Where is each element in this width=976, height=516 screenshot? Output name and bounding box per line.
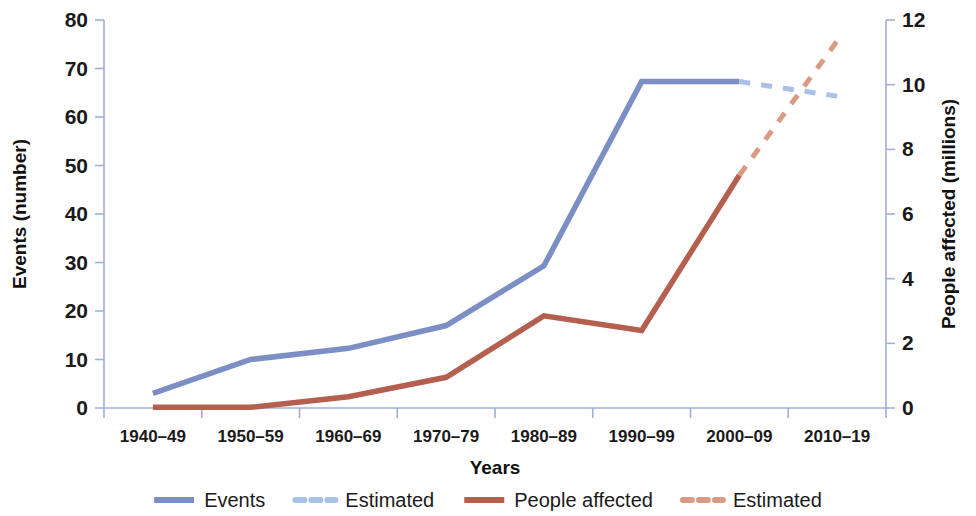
y-axis-right-tick-label: 4 [902,267,914,290]
line-chart: 01020304050607080 024681012 1940–491950–… [0,0,976,516]
y-axis-right-title: People affected (millions) [938,99,959,329]
chart-legend: EventsEstimatedPeople affectedEstimated [154,489,822,511]
x-axis: 1940–491950–591960–691970–791980–891990–… [104,408,886,446]
y-axis-left-tick-label: 40 [65,202,88,225]
y-axis-right-tick-label: 10 [902,73,925,96]
legend-item-estimated-1[interactable]: Estimated [295,489,434,511]
legend-label: Estimated [733,489,822,511]
y-axis-left-tick-label: 20 [65,299,88,322]
y-axis-left-tick-label: 10 [65,348,88,371]
legend-label: Events [204,489,265,511]
legend-item-events-0[interactable]: Events [154,489,265,511]
y-axis-left-tick-label: 50 [65,154,88,177]
legend-label: Estimated [345,489,434,511]
chart-container: 01020304050607080 024681012 1940–491950–… [0,0,976,516]
axis-titles: Events (number)People affected (millions… [9,99,959,478]
series-line-estimated-3 [739,41,837,175]
series-layer [153,41,837,407]
y-axis-left-tick-label: 0 [76,396,88,419]
legend-label: People affected [514,489,653,511]
y-axis-left: 01020304050607080 [65,8,104,419]
x-axis-tick-label: 1990–99 [609,427,675,446]
x-axis-tick-label: 1970–79 [413,427,479,446]
x-axis-tick-label: 1950–59 [218,427,284,446]
x-axis-tick-label: 1980–89 [511,427,577,446]
y-axis-left-tick-label: 60 [65,105,88,128]
x-axis-tick-label: 2000–09 [706,427,772,446]
legend-item-estimated-3[interactable]: Estimated [683,489,822,511]
x-axis-tick-label: 2010–19 [804,427,870,446]
x-axis-title: Years [470,457,521,478]
x-axis-tick-label: 1960–69 [315,427,381,446]
y-axis-left-title: Events (number) [9,139,30,289]
y-axis-left-tick-label: 80 [65,8,88,31]
series-line-events-0 [153,82,740,394]
y-axis-right-tick-label: 0 [902,396,914,419]
y-axis-right-tick-label: 12 [902,8,925,31]
y-axis-right-tick-label: 8 [902,137,914,160]
series-line-people-affected-2 [153,175,740,407]
y-axis-right-tick-label: 6 [902,202,914,225]
y-axis-left-tick-label: 30 [65,251,88,274]
legend-item-people-affected-2[interactable]: People affected [464,489,653,511]
y-axis-left-tick-label: 70 [65,57,88,80]
x-axis-tick-label: 1940–49 [120,427,186,446]
series-line-estimated-1 [739,82,837,97]
y-axis-right: 024681012 [886,8,925,419]
y-axis-right-tick-label: 2 [902,331,914,354]
